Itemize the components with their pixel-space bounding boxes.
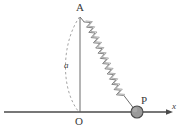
label-apex-a: A — [76, 2, 84, 13]
diagram-svg — [0, 0, 186, 133]
spring-helix-front — [84, 22, 123, 95]
spring-top-lead — [80, 17, 84, 22]
mass-bob-circle — [131, 106, 143, 118]
label-mass-p: P — [141, 95, 147, 106]
mass-bob — [131, 106, 143, 118]
label-radius-a: a — [64, 61, 69, 70]
spring-coil — [80, 17, 134, 108]
figure-canvas: A O P a x — [0, 0, 186, 133]
x-axis — [4, 109, 173, 115]
mass-bob-highlight — [133, 108, 138, 113]
label-origin-o: O — [75, 116, 83, 127]
spring-bottom-lead — [124, 95, 134, 108]
spring-helix-back — [86, 21, 125, 94]
label-axis-x: x — [172, 102, 176, 111]
